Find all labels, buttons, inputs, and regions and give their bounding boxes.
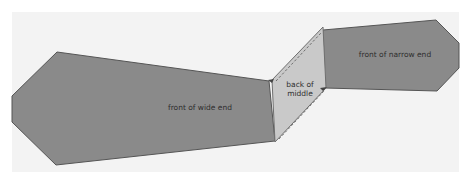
narrow-end-label: front of narrow end bbox=[345, 50, 445, 59]
middle-label: back of middle bbox=[278, 80, 322, 98]
wide-end-label: front of wide end bbox=[150, 103, 250, 112]
middle-label-line2: middle bbox=[278, 89, 322, 98]
middle-label-line1: back of bbox=[278, 80, 322, 89]
tie-diagram bbox=[0, 0, 467, 183]
